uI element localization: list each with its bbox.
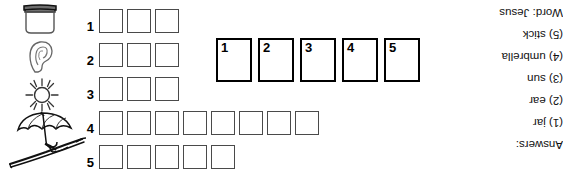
worksheet-page: 1 2 3 4 5 bbox=[0, 0, 567, 179]
letter-box[interactable] bbox=[127, 77, 151, 101]
answer-box-number: 5 bbox=[389, 41, 396, 55]
answers-heading: Answers: bbox=[439, 134, 563, 156]
answer-box[interactable]: 4 bbox=[342, 38, 378, 82]
answer-box-number: 3 bbox=[305, 41, 312, 55]
letter-box[interactable] bbox=[127, 111, 151, 135]
answer-box-number: 2 bbox=[263, 41, 270, 55]
letter-box[interactable] bbox=[183, 145, 207, 169]
answer-box-number: 1 bbox=[221, 41, 228, 55]
jar-illustration bbox=[20, 2, 60, 36]
row-number: 5 bbox=[80, 156, 94, 169]
row-number: 4 bbox=[80, 122, 94, 135]
letter-box[interactable] bbox=[211, 111, 235, 135]
letter-box[interactable] bbox=[183, 111, 207, 135]
letter-box[interactable] bbox=[99, 111, 123, 135]
puzzle-row: 1 bbox=[80, 4, 323, 38]
row-number: 1 bbox=[80, 20, 94, 33]
stick-illustration bbox=[6, 128, 88, 170]
letter-box[interactable] bbox=[155, 145, 179, 169]
letter-box[interactable] bbox=[267, 111, 291, 135]
puzzle-row: 4 bbox=[80, 106, 323, 140]
letter-box[interactable] bbox=[127, 145, 151, 169]
answer-key-item-1: (1) jar bbox=[439, 112, 563, 134]
letter-box[interactable] bbox=[155, 77, 179, 101]
answer-key-item-4: (4) umbrella bbox=[439, 46, 563, 68]
answer-key-item-3: (3) sun bbox=[439, 68, 563, 90]
letter-box[interactable] bbox=[99, 9, 123, 33]
letter-box[interactable] bbox=[155, 43, 179, 67]
row-number: 3 bbox=[80, 88, 94, 101]
answer-key-word: Word: Jesus bbox=[439, 2, 563, 24]
answers-key: Answers: (1) jar (2) ear (3) sun (4) umb… bbox=[439, 2, 563, 156]
letter-box[interactable] bbox=[99, 43, 123, 67]
answer-key-item-5: (5) stick bbox=[439, 24, 563, 46]
letter-box[interactable] bbox=[99, 145, 123, 169]
answer-box[interactable]: 5 bbox=[384, 38, 420, 82]
row-number: 2 bbox=[80, 54, 94, 67]
puzzle-grid: 1 2 3 4 5 bbox=[80, 4, 323, 174]
letter-box[interactable] bbox=[211, 145, 235, 169]
letter-box[interactable] bbox=[99, 77, 123, 101]
answer-box-number: 4 bbox=[347, 41, 354, 55]
answer-box[interactable]: 3 bbox=[300, 38, 336, 82]
answer-box[interactable]: 1 bbox=[216, 38, 252, 82]
answer-box[interactable]: 2 bbox=[258, 38, 294, 82]
letter-box[interactable] bbox=[127, 9, 151, 33]
letter-box[interactable] bbox=[127, 43, 151, 67]
letter-box[interactable] bbox=[155, 111, 179, 135]
sun-illustration bbox=[22, 76, 62, 114]
letter-box[interactable] bbox=[239, 111, 263, 135]
answer-word-boxes: 1 2 3 4 5 bbox=[216, 38, 426, 82]
puzzle-row: 5 bbox=[80, 140, 323, 174]
ear-illustration bbox=[26, 38, 58, 74]
answer-key-item-2: (2) ear bbox=[439, 90, 563, 112]
letter-box[interactable] bbox=[295, 111, 319, 135]
letter-box[interactable] bbox=[155, 9, 179, 33]
